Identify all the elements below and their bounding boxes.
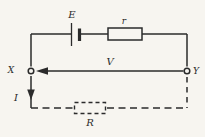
external-resistor-box <box>75 103 106 114</box>
load-resistance-label: R <box>86 118 94 128</box>
internal-resistance-label: r <box>122 17 126 26</box>
terminal-x-label: X <box>8 66 14 75</box>
internal-resistor-box <box>108 28 142 40</box>
current-arrowhead <box>27 90 35 101</box>
circuit-diagram: E r V X Y I R <box>0 0 205 137</box>
terminal-voltage-label: V <box>106 57 113 67</box>
voltage-arrowhead <box>36 67 48 75</box>
terminal-x-node <box>28 68 34 74</box>
battery-cell-icon <box>72 23 80 46</box>
circuit-wires <box>0 0 205 137</box>
emf-label: E <box>68 10 75 20</box>
current-label: I <box>14 93 18 103</box>
current-arrow-icon <box>27 76 35 108</box>
voltage-arrow-icon <box>36 67 184 75</box>
terminal-y-label: Y <box>193 67 199 76</box>
terminal-y-node <box>184 68 190 74</box>
